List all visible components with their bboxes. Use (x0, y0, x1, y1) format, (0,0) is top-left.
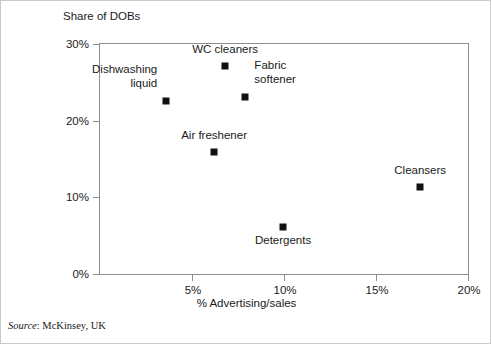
x-axis-tick: 15% (376, 274, 377, 281)
source-label: Source (8, 320, 37, 331)
source-text: : McKinsey, UK (37, 320, 106, 331)
x-axis-tick-label: 5% (185, 283, 202, 297)
y-axis-title: Share of DOBs (63, 9, 140, 23)
chart-figure: Share of DOBs 0%10%20%30%5%10%15%20%WC c… (0, 0, 491, 344)
data-point-marker[interactable] (222, 63, 229, 70)
data-point-label: WC cleaners (192, 42, 258, 56)
x-axis-title: % Advertising/sales (1, 296, 491, 310)
y-axis-tick-label: 0% (72, 267, 89, 281)
data-point-label: Cleansers (394, 163, 446, 177)
data-point-marker[interactable] (211, 149, 218, 156)
x-axis-tick: 10% (284, 274, 285, 281)
data-point-marker[interactable] (163, 97, 170, 104)
data-point-marker[interactable] (280, 224, 287, 231)
data-point-marker[interactable] (242, 93, 249, 100)
data-point-label: Dishwashing liquid (92, 62, 157, 90)
x-axis-tick-label: 10% (273, 283, 296, 297)
source-note: Source: McKinsey, UK (8, 319, 106, 332)
y-axis-tick: 30% (93, 44, 100, 45)
y-axis-tick: 20% (93, 121, 100, 122)
data-point-label: Fabric softener (254, 58, 296, 86)
data-point-label: Air freshener (181, 128, 247, 142)
x-axis-tick: 20% (468, 274, 469, 281)
x-axis-tick: 5% (192, 274, 193, 281)
y-axis-tick: 0% (93, 274, 100, 275)
y-axis-tick-label: 10% (66, 190, 89, 204)
y-axis-tick: 10% (93, 197, 100, 198)
data-point-label: Detergents (255, 233, 311, 247)
plot-area: 0%10%20%30%5%10%15%20%WC cleanersDishwas… (99, 43, 469, 275)
y-axis-tick-label: 20% (66, 114, 89, 128)
x-axis-tick-label: 15% (365, 283, 388, 297)
x-axis-tick-label: 20% (457, 283, 480, 297)
y-axis-tick-label: 30% (66, 37, 89, 51)
data-point-marker[interactable] (417, 184, 424, 191)
